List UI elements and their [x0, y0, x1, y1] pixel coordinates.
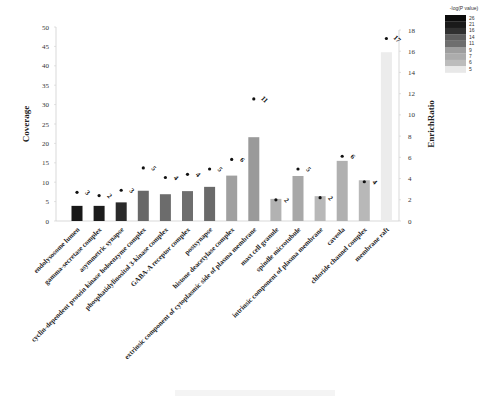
y2-tick-label: 12 — [408, 90, 416, 98]
legend-swatch — [445, 53, 466, 60]
x-category-label: phosphatidylinositol 3-kinase complex — [84, 225, 171, 312]
bar — [293, 176, 304, 221]
bar — [94, 206, 105, 221]
legend-title: -log(P value) — [450, 5, 479, 11]
legend-value: 11 — [469, 40, 474, 46]
bar — [381, 52, 392, 221]
legend-swatch — [445, 15, 466, 22]
y2-tick-label: 14 — [408, 69, 416, 77]
gene-count-label: 4 — [194, 171, 202, 179]
x-category-label: mast cell granule — [239, 226, 281, 268]
gene-count-label: 11 — [259, 94, 270, 105]
enrich-ratio-marker — [75, 191, 78, 194]
bar — [204, 187, 215, 221]
legend-value: 14 — [469, 34, 475, 40]
gene-count-label: 2 — [282, 196, 290, 204]
enrich-ratio-marker — [296, 167, 299, 170]
x-axis-labels: endolysosome lumengamma-secretase comple… — [30, 225, 392, 361]
gene-count-label: 3 — [128, 187, 136, 195]
legend-swatch — [445, 41, 466, 48]
enrich-markers-group: 32354456112526417 — [75, 34, 402, 205]
gene-count-label: 17 — [392, 34, 403, 45]
gene-count-label: 4 — [172, 174, 180, 182]
enrich-ratio-marker — [341, 155, 344, 158]
gene-count-label: 2 — [105, 192, 113, 200]
y-tick-label: 50 — [42, 24, 50, 32]
enrich-ratio-marker — [319, 196, 322, 199]
bar — [315, 196, 326, 221]
gene-count-label: 4 — [371, 178, 379, 186]
figure-caption — [175, 390, 335, 396]
legend-swatch — [445, 47, 466, 54]
bar — [270, 199, 281, 221]
legend-swatch — [445, 66, 466, 73]
legend-value: 7 — [469, 53, 472, 59]
enrich-ratio-marker — [142, 166, 145, 169]
legend-value: 6 — [469, 59, 472, 65]
enrich-ratio-marker — [363, 180, 366, 183]
bar — [116, 202, 127, 221]
gene-count-label: 5 — [150, 164, 158, 172]
enrich-ratio-marker — [274, 198, 277, 201]
right-y-axis: 024681012141618 — [399, 27, 416, 226]
legend-swatch — [445, 60, 466, 67]
y2-tick-label: 0 — [408, 218, 412, 226]
y2-tick-label: 8 — [408, 133, 412, 141]
enrich-ratio-marker — [385, 37, 388, 40]
legend-swatch — [445, 28, 466, 35]
y-tick-label: 10 — [42, 179, 50, 187]
y-axis-title: Coverage — [21, 106, 31, 142]
y2-tick-label: 6 — [408, 154, 412, 162]
gene-count-label: 6 — [238, 156, 246, 164]
bar — [248, 137, 259, 221]
legend-value: 21 — [469, 21, 475, 27]
enrich-ratio-marker — [164, 176, 167, 179]
legend-value: 26 — [469, 15, 475, 21]
y-tick-label: 45 — [42, 43, 50, 51]
y-tick-label: 30 — [42, 101, 50, 109]
legend-value: 5 — [469, 66, 472, 72]
gene-count-label: 5 — [304, 166, 312, 174]
enrich-ratio-marker — [208, 167, 211, 170]
enrich-ratio-marker — [252, 97, 255, 100]
y-tick-label: 35 — [42, 82, 50, 90]
bar — [359, 180, 370, 221]
enrich-ratio-marker — [186, 173, 189, 176]
enrich-ratio-marker — [230, 158, 233, 161]
bar — [182, 191, 193, 221]
gene-count-label: 3 — [83, 189, 91, 197]
y2-tick-label: 18 — [408, 27, 416, 35]
y2-tick-label: 16 — [408, 48, 416, 56]
y2-tick-label: 4 — [408, 175, 412, 183]
enrich-ratio-marker — [98, 194, 101, 197]
y-tick-label: 20 — [42, 140, 50, 148]
y-tick-label: 15 — [42, 159, 50, 167]
y-tick-label: 0 — [46, 218, 50, 226]
bars-group — [72, 52, 392, 221]
enrich-ratio-marker — [120, 189, 123, 192]
coverage-enrichment-chart: 05101520253035404550 024681012141618 Cov… — [0, 0, 487, 401]
y2-axis-title: EnrichRatio — [426, 100, 436, 148]
legend-value: 16 — [469, 27, 475, 33]
legend: -log(P value)26211614119765 — [445, 5, 478, 73]
legend-swatch — [445, 34, 466, 41]
y2-tick-label: 10 — [408, 111, 416, 119]
y-tick-label: 25 — [42, 121, 50, 129]
y2-tick-label: 2 — [408, 196, 412, 204]
bar — [226, 176, 237, 221]
bar — [138, 191, 149, 221]
legend-swatch — [445, 21, 466, 28]
gene-count-label: 5 — [216, 166, 224, 174]
bar — [72, 206, 83, 221]
legend-value: 9 — [469, 47, 472, 53]
gene-count-label: 6 — [349, 153, 357, 161]
bar — [337, 161, 348, 221]
bar — [160, 194, 171, 221]
y-tick-label: 40 — [42, 62, 50, 70]
gene-count-label: 2 — [326, 194, 334, 202]
y-tick-label: 5 — [46, 198, 50, 206]
